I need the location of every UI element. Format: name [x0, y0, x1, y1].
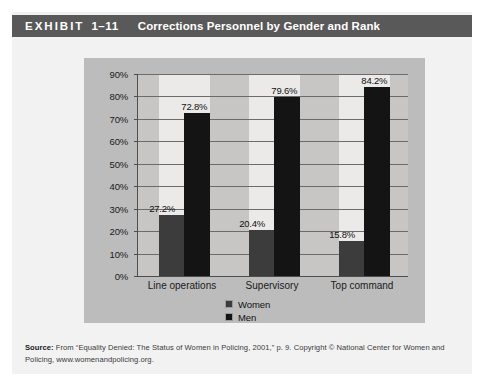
exhibit-title: Corrections Personnel by Gender and Rank: [138, 20, 380, 32]
plot-band: [318, 74, 339, 276]
y-axis-tick-label: 60%: [110, 136, 128, 147]
x-axis-category-label: Top command: [331, 280, 394, 291]
chart-panel: 90%80%70%60%50%40%30%20%10%0% 27.2%72.8%…: [84, 58, 425, 323]
y-axis-tick-label: 70%: [110, 113, 128, 124]
y-axis-tick: [134, 74, 138, 75]
x-axis-category-label: Supervisory: [246, 280, 299, 291]
y-axis-tick-label: 10%: [110, 248, 128, 259]
legend-item-women: Women: [225, 298, 305, 310]
bar-value-label: 79.6%: [271, 85, 297, 96]
plot-band: [228, 74, 249, 276]
source-label: Source:: [25, 343, 54, 352]
y-axis-tick-label: 0%: [115, 271, 128, 282]
plot-area: 27.2%72.8%20.4%79.6%15.8%84.2%: [137, 74, 408, 277]
bar-value-label: 84.2%: [361, 75, 387, 86]
exhibit-figure: EXHIBIT 1–11 Corrections Personnel by Ge…: [12, 12, 472, 374]
x-axis-category-label: Line operations: [148, 280, 216, 291]
bar-value-label: 20.4%: [239, 218, 265, 229]
bar-men-3: [364, 87, 389, 276]
bar-women-3: [339, 241, 364, 276]
legend-label: Women: [238, 299, 270, 310]
bar-value-label: 15.8%: [329, 229, 355, 240]
legend-label: Men: [238, 312, 256, 323]
y-axis-tick: [134, 186, 138, 187]
legend-swatch-icon: [225, 300, 233, 308]
y-axis-tick-label: 40%: [110, 181, 128, 192]
y-axis-tick-label: 30%: [110, 203, 128, 214]
legend-item-men: Men: [225, 311, 305, 323]
y-axis-tick-label: 50%: [110, 158, 128, 169]
bar-value-label: 27.2%: [149, 203, 175, 214]
y-axis-tick: [134, 141, 138, 142]
bar-value-label: 72.8%: [181, 101, 207, 112]
plot-band: [300, 74, 318, 276]
bar-men-1: [184, 113, 209, 276]
bar-men-2: [274, 97, 299, 276]
y-axis-tick-label: 20%: [110, 226, 128, 237]
y-axis-tick: [134, 276, 138, 277]
plot-band: [390, 74, 408, 276]
legend-swatch-icon: [225, 313, 233, 321]
y-axis-tick: [134, 119, 138, 120]
y-axis-labels: 90%80%70%60%50%40%30%20%10%0%: [92, 74, 132, 276]
plot-inner: 27.2%72.8%20.4%79.6%15.8%84.2%: [138, 74, 408, 276]
bar-women-2: [249, 230, 274, 276]
source-text: From “Equality Denied: The Status of Wom…: [25, 343, 445, 364]
y-axis-tick-label: 80%: [110, 91, 128, 102]
y-axis-tick-label: 90%: [110, 69, 128, 80]
y-axis-tick: [134, 209, 138, 210]
chart-plot-wrapper: 90%80%70%60%50%40%30%20%10%0% 27.2%72.8%…: [137, 74, 407, 276]
exhibit-label: EXHIBIT: [25, 20, 84, 32]
x-axis-labels: Line operationsSupervisoryTop command: [137, 278, 407, 294]
source-note: Source: From “Equality Denied: The Statu…: [25, 342, 459, 365]
chart-legend: WomenMen: [225, 298, 305, 324]
y-axis-tick: [134, 164, 138, 165]
bar-women-1: [159, 215, 184, 276]
y-axis-tick: [134, 96, 138, 97]
plot-band: [210, 74, 228, 276]
y-axis-tick: [134, 231, 138, 232]
y-axis-tick: [134, 254, 138, 255]
exhibit-header-bar: EXHIBIT 1–11 Corrections Personnel by Ge…: [12, 15, 472, 37]
plot-band: [138, 74, 159, 276]
exhibit-number: 1–11: [91, 20, 118, 32]
